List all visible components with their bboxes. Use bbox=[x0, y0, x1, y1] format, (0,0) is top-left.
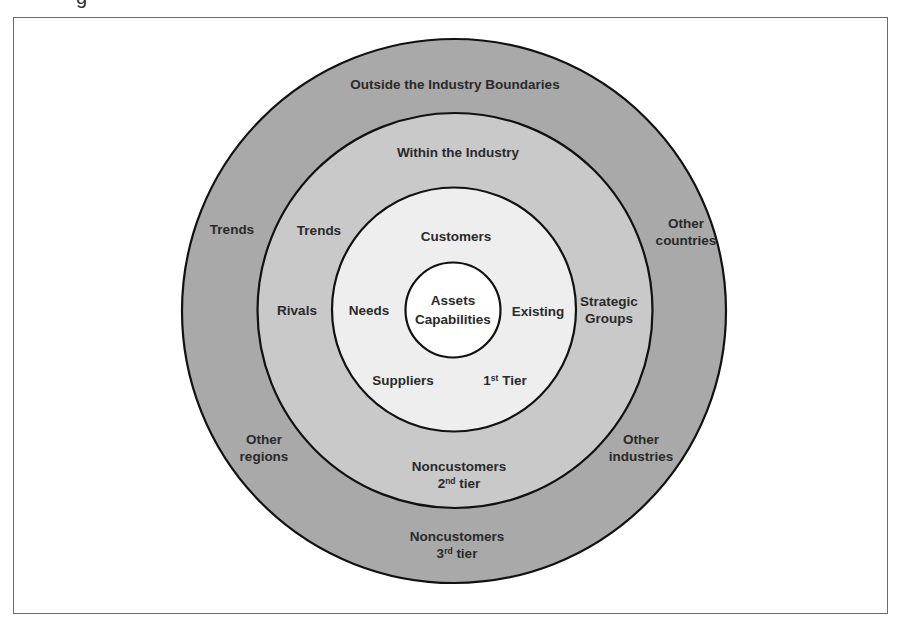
first-tier-label: 1st Tier bbox=[483, 372, 526, 389]
suppliers-label: Suppliers bbox=[372, 372, 434, 389]
other-regions-label: Other regions bbox=[240, 431, 289, 465]
rivals-label: Rivals bbox=[277, 302, 317, 319]
noncustomers-2nd-tier-label: Noncustomers 2nd tier bbox=[412, 458, 507, 492]
inner-ring-title-customers: Customers bbox=[421, 228, 492, 245]
existing-label: Existing bbox=[512, 303, 565, 320]
needs-label: Needs bbox=[349, 302, 390, 319]
strategic-groups-label: Strategic Groups bbox=[580, 293, 638, 327]
outer-trends-label: Trends bbox=[210, 221, 254, 238]
noncustomers-3rd-tier-label: Noncustomers 3rd tier bbox=[410, 528, 505, 562]
middle-ring-title: Within the Industry bbox=[397, 144, 519, 161]
outer-ring-title: Outside the Industry Boundaries bbox=[350, 76, 559, 93]
other-countries-label: Other countries bbox=[656, 215, 717, 249]
core-assets-capabilities-label: Assets Capabilities bbox=[415, 291, 491, 329]
middle-trends-label: Trends bbox=[297, 222, 341, 239]
other-industries-label: Other industries bbox=[609, 431, 674, 465]
